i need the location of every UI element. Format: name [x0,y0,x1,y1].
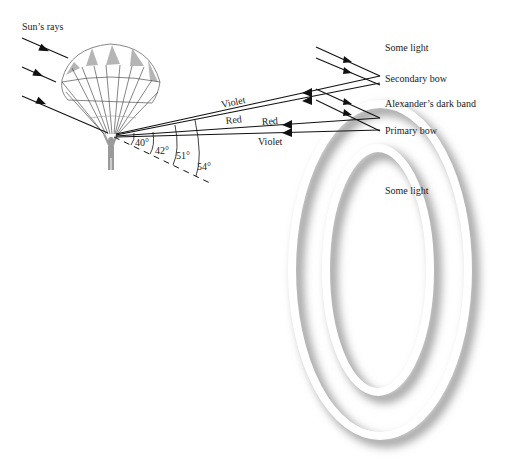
label-primary-violet: Violet [258,136,283,147]
antisolar-dashed-line [114,137,210,183]
rainbow-diagram: 40° 42° 51° 54° Violet Red Red Violet Su… [0,0,506,463]
angle-54: 54° [197,161,211,172]
observer-ray-arrows [282,88,312,137]
label-secondary-red: Red [225,113,242,126]
parachutist-figure [104,134,117,170]
label-some-light-top: Some light [385,42,429,53]
angle-51: 51° [176,150,190,161]
label-primary-bow: Primary bow [385,125,438,136]
angle-40: 40° [135,137,149,148]
label-secondary-violet: Violet [220,94,246,110]
label-some-light-inner: Some light [385,185,429,196]
parachute [62,44,160,134]
angle-42: 42° [155,145,169,156]
label-dark-band: Alexander’s dark band [385,98,476,109]
incoming-ray-arrows [343,56,352,116]
label-sun-rays: Sun’s rays [22,21,64,32]
label-secondary-bow: Secondary bow [385,73,448,84]
label-primary-red: Red [261,115,278,127]
